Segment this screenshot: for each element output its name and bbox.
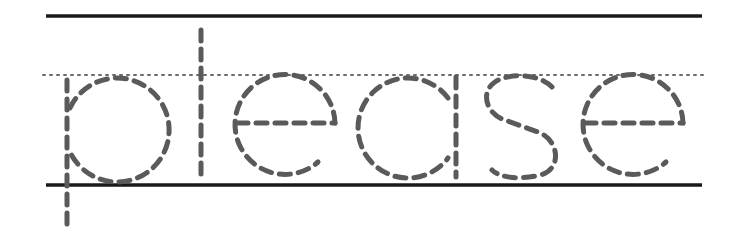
letter-s-curve bbox=[487, 76, 556, 178]
letter-p-bowl bbox=[70, 78, 169, 182]
letter-a-bowl bbox=[358, 78, 448, 178]
trace-letter-p[interactable] bbox=[67, 78, 169, 225]
tracing-canvas bbox=[0, 0, 742, 240]
trace-letter-e-1[interactable] bbox=[235, 74, 335, 174]
trace-letter-e-2[interactable] bbox=[583, 74, 683, 174]
trace-letter-a[interactable] bbox=[358, 77, 456, 178]
trace-letter-s[interactable] bbox=[487, 76, 556, 178]
handwriting-practice-sheet: please bbox=[0, 0, 742, 240]
